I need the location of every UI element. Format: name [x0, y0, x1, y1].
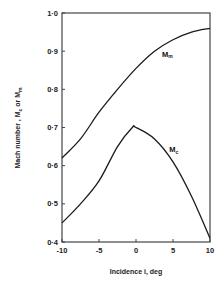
curve-mm: [62, 28, 210, 158]
curve-labels: MmMc: [162, 50, 179, 155]
y-axis-label: Mach number , Mc or Mm: [14, 87, 23, 169]
y-tick-label: 0·8: [47, 85, 58, 94]
x-tick-label: -10: [57, 246, 68, 255]
x-tick-label: 10: [206, 246, 214, 255]
y-tick-label: 0·9: [47, 47, 58, 56]
x-axis-label: Incidence i, deg: [110, 268, 163, 276]
x-tick-label: -5: [96, 246, 103, 255]
curves: [62, 28, 210, 238]
y-tick-label: 0·6: [47, 161, 58, 170]
chart: 0·40·50·60·70·80·91·0 -10-50510 MmMc Inc…: [0, 0, 223, 285]
y-tick-label: 1·0: [47, 9, 58, 18]
label-mm: Mm: [162, 50, 173, 60]
x-tick-label: 0: [134, 246, 138, 255]
y-tick-label: 0·5: [47, 199, 58, 208]
curve-mc: [62, 126, 210, 239]
x-axis-ticks: -10-50510: [57, 239, 215, 255]
y-tick-label: 0·7: [47, 123, 58, 132]
x-tick-label: 5: [171, 246, 175, 255]
label-mc: Mc: [169, 145, 178, 155]
